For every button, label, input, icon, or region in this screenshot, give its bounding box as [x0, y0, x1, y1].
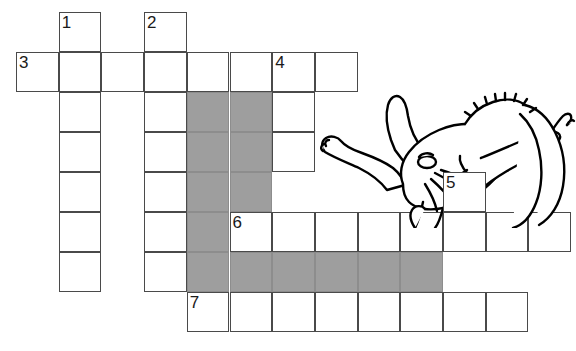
crossword-cell[interactable]	[358, 292, 401, 332]
crossword-cell[interactable]	[230, 212, 273, 252]
crossword-block-cell	[187, 132, 230, 172]
crossword-cell[interactable]	[144, 132, 187, 172]
crossword-block-cell	[358, 252, 401, 292]
crossword-cell[interactable]	[144, 212, 187, 252]
crossword-cell[interactable]	[443, 172, 486, 212]
crossword-cell[interactable]	[59, 92, 102, 132]
crossword-block-cell	[230, 92, 273, 132]
crossword-block-cell	[187, 212, 230, 252]
crossword-block-cell	[187, 92, 230, 132]
crossword-block-cell	[230, 252, 273, 292]
crossword-cell[interactable]	[59, 212, 102, 252]
crossword-cell[interactable]	[272, 92, 315, 132]
crossword-cell[interactable]	[144, 12, 187, 52]
crossword-cell[interactable]	[101, 52, 144, 92]
crossword-cell[interactable]	[272, 132, 315, 172]
crossword-cell[interactable]	[59, 12, 102, 52]
crossword-cell[interactable]	[144, 252, 187, 292]
crossword-block-cell	[230, 132, 273, 172]
crossword-cell[interactable]	[443, 292, 486, 332]
crossword-cell[interactable]	[59, 172, 102, 212]
crossword-cell[interactable]	[486, 292, 529, 332]
crossword-block-cell	[315, 252, 358, 292]
crossword-cell[interactable]	[443, 212, 486, 252]
crossword-grid[interactable]: 1234567	[0, 0, 576, 351]
crossword-cell[interactable]	[187, 292, 230, 332]
crossword-cell[interactable]	[358, 212, 401, 252]
crossword-cell[interactable]	[272, 52, 315, 92]
crossword-block-cell	[400, 252, 443, 292]
crossword-cell[interactable]	[272, 292, 315, 332]
crossword-cell[interactable]	[272, 212, 315, 252]
crossword-cell[interactable]	[315, 212, 358, 252]
crossword-cell[interactable]	[400, 212, 443, 252]
crossword-cell[interactable]	[59, 252, 102, 292]
crossword-cell[interactable]	[315, 52, 358, 92]
crossword-cell[interactable]	[59, 132, 102, 172]
crossword-cell[interactable]	[315, 292, 358, 332]
crossword-cell[interactable]	[144, 52, 187, 92]
crossword-cell[interactable]	[528, 212, 571, 252]
crossword-block-cell	[187, 172, 230, 212]
crossword-cell[interactable]	[230, 292, 273, 332]
crossword-block-cell	[272, 252, 315, 292]
crossword-cell[interactable]	[144, 172, 187, 212]
crossword-cell[interactable]	[230, 52, 273, 92]
crossword-block-cell	[187, 252, 230, 292]
crossword-cell[interactable]	[59, 52, 102, 92]
crossword-cell[interactable]	[400, 292, 443, 332]
crossword-cell[interactable]	[144, 92, 187, 132]
crossword-cell[interactable]	[486, 212, 529, 252]
crossword-cell[interactable]	[187, 52, 230, 92]
crossword-block-cell	[230, 172, 273, 212]
crossword-cell[interactable]	[16, 52, 59, 92]
